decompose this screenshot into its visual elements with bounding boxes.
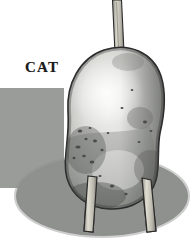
cat-label: CAT: [25, 59, 59, 76]
illustration-scene: CAT: [0, 0, 196, 239]
illustration-svg: [0, 0, 196, 239]
vertical-rod: [113, 0, 125, 53]
